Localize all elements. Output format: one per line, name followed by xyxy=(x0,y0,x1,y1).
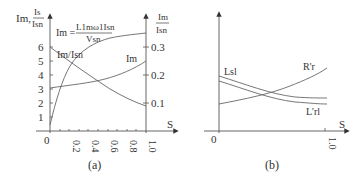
left-tick-5: 5 xyxy=(38,55,44,67)
curve-im-over-isn xyxy=(50,33,146,125)
left-tick-6: 6 xyxy=(38,41,44,53)
x-tick-0.2: 0.2 xyxy=(71,140,82,153)
left-axis-label: Im, xyxy=(16,12,31,24)
left-tick-4: 4 xyxy=(38,69,44,81)
formula-lhs: Im = xyxy=(56,27,76,38)
formula-num: L1mω1Isn xyxy=(76,22,115,32)
label-rr: R'r xyxy=(303,61,315,72)
left-tick-1: 1 xyxy=(38,111,44,123)
curve-lsl xyxy=(219,76,327,98)
b-x-axis-label: S xyxy=(339,118,345,130)
right-tick-0.2: 0.2 xyxy=(151,69,165,81)
label-lrl: L'rl xyxy=(306,106,320,117)
label-im: Im xyxy=(126,53,137,64)
caption-b: (b) xyxy=(265,158,279,172)
right-tick-0.3: 0.3 xyxy=(151,41,165,53)
right-tick-0.1: 0.1 xyxy=(151,97,165,109)
x-tick-1.0: 1.0 xyxy=(147,140,158,153)
x-tick-0.6: 0.6 xyxy=(109,140,120,153)
left-tick-3: 3 xyxy=(38,83,44,95)
b-x-tick-1.0: 1.0 xyxy=(327,137,338,150)
b-x-origin: 0 xyxy=(211,133,217,145)
right-axis-frac-den: Isn xyxy=(156,25,167,35)
figure: 6 5 4 3 2 1 Im, Is Isn 0.3 0.2 0.1 Im Is… xyxy=(0,0,362,186)
panel-a: 6 5 4 3 2 1 Im, Is Isn 0.3 0.2 0.1 Im Is… xyxy=(16,7,176,172)
label-lsl: Lsl xyxy=(224,66,237,77)
label-im-over-isn: Im/Isn xyxy=(57,49,83,60)
curve-im xyxy=(50,61,146,88)
x-tick-0.4: 0.4 xyxy=(90,140,101,153)
formula-den: Vsn xyxy=(86,34,101,44)
left-axis-frac-num: Is xyxy=(34,7,41,17)
x-origin: 0 xyxy=(44,134,50,146)
left-tick-2: 2 xyxy=(38,97,44,109)
left-axis-frac-den: Isn xyxy=(32,19,43,29)
x-axis-label: S xyxy=(167,118,173,130)
x-tick-0.8: 0.8 xyxy=(128,140,139,153)
caption-a: (a) xyxy=(88,158,101,172)
panel-b: 0 1.0 S Lsl R'r L'rl (b) xyxy=(204,14,347,172)
right-axis-frac-num: Im xyxy=(158,12,168,22)
